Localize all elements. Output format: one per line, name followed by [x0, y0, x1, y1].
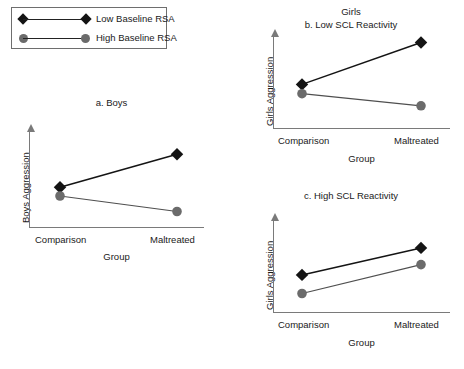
series-line-high-baseline-rsa [302, 265, 421, 294]
data-point-marker [415, 242, 427, 254]
panel-title: c. High SCL Reactivity [256, 190, 446, 202]
circle-marker-icon [81, 34, 90, 43]
legend: Low Baseline RSA High Baseline RSA [11, 7, 167, 49]
chart-panel-boys: a. Boys Boys Aggression Comparison Maltr… [4, 95, 219, 265]
plot-area [29, 131, 204, 228]
panel-suptitle: Girls [256, 6, 446, 18]
x-axis-label: Group [273, 153, 450, 164]
panel-title: a. Boys [4, 97, 219, 109]
data-point-marker [416, 260, 426, 270]
x-tick-label-maltreated: Maltreated [394, 135, 439, 146]
x-axis-label: Group [273, 337, 450, 348]
plot-area [273, 36, 450, 129]
legend-line [23, 38, 86, 39]
x-tick-label-comparison: Comparison [278, 319, 329, 330]
data-point-marker [55, 191, 65, 201]
data-point-marker [172, 207, 182, 217]
x-tick-label-comparison: Comparison [278, 135, 329, 146]
data-point-marker [297, 89, 307, 99]
legend-item-high-baseline-rsa: High Baseline RSA [12, 28, 166, 49]
legend-line [23, 19, 86, 20]
data-point-marker [296, 269, 308, 281]
x-tick-label-maltreated: Maltreated [394, 319, 439, 330]
data-point-marker [297, 289, 307, 299]
series-line-low-baseline-rsa [302, 43, 421, 85]
series-group [273, 36, 450, 129]
x-axis-label: Group [29, 251, 204, 262]
panel-title: b. Low SCL Reactivity [256, 19, 446, 31]
chart-panel-girls-low-scl: Girls b. Low SCL Reactivity Girls Aggres… [234, 6, 460, 184]
data-point-marker [415, 36, 427, 48]
chart-panel-girls-high-scl: c. High SCL Reactivity Girls Aggression … [234, 188, 460, 366]
plot-area [273, 220, 450, 313]
legend-item-label: Low Baseline RSA [96, 12, 175, 25]
x-tick-label-maltreated: Maltreated [150, 234, 195, 245]
data-point-marker [171, 148, 183, 160]
series-line-low-baseline-rsa [302, 248, 421, 275]
legend-item-low-baseline-rsa: Low Baseline RSA [12, 9, 166, 30]
series-line-high-baseline-rsa [302, 94, 421, 106]
x-tick-label-comparison: Comparison [35, 234, 86, 245]
data-point-marker [296, 78, 308, 90]
series-line-high-baseline-rsa [60, 196, 177, 212]
data-point-marker [416, 101, 426, 111]
legend-item-label: High Baseline RSA [96, 31, 177, 44]
diamond-marker-icon [80, 13, 91, 24]
series-group [29, 131, 204, 228]
series-group [273, 220, 450, 313]
series-line-low-baseline-rsa [60, 154, 177, 187]
